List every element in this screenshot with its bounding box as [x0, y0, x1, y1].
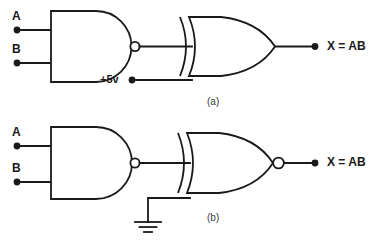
- ground-wire-b: [148, 198, 190, 222]
- output-terminal-dot-b[interactable]: [312, 160, 319, 167]
- input-a-label-b: A: [12, 126, 21, 138]
- input-b-label-a: B: [12, 43, 21, 55]
- schematic-canvas: [0, 0, 391, 250]
- logic-diagram: A B +5v X = AB (a) A B X = AB (b): [0, 0, 391, 250]
- nand-gate-body-a[interactable]: [51, 11, 131, 82]
- supply-label-a: +5v: [100, 74, 119, 85]
- output-label-a: X = AB: [327, 40, 366, 52]
- nand-gate-body-b[interactable]: [51, 127, 132, 199]
- output-label-b: X = AB: [327, 156, 366, 168]
- xnor-output-bubble-b: [273, 158, 284, 169]
- xnor-gate-body-b[interactable]: [187, 133, 273, 193]
- input-b-label-b: B: [12, 162, 21, 174]
- nand-output-bubble-b: [130, 158, 139, 167]
- caption-b: (b): [207, 213, 219, 223]
- input-a-label-a: A: [12, 10, 21, 22]
- output-terminal-dot-a[interactable]: [312, 43, 319, 50]
- caption-a: (a): [207, 97, 219, 107]
- nand-output-bubble-a: [130, 42, 139, 51]
- xor-gate-body-a[interactable]: [189, 17, 275, 76]
